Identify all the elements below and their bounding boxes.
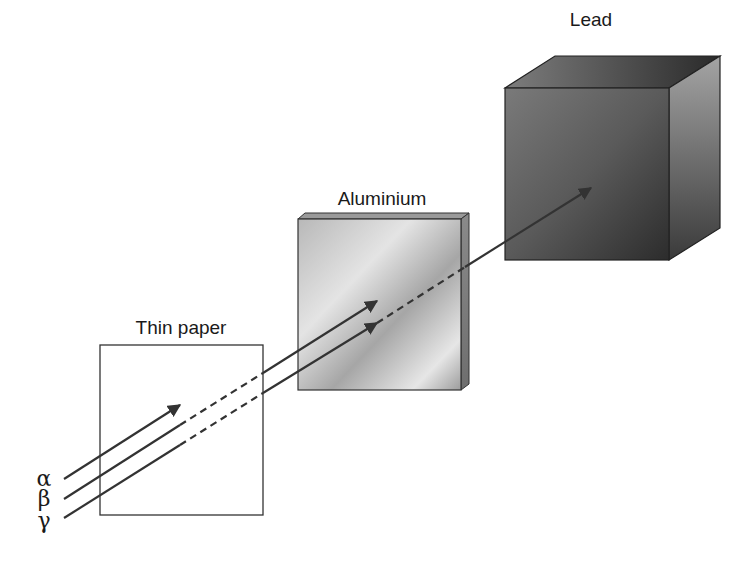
aluminium-top-edge xyxy=(298,213,469,219)
lead-label: Lead xyxy=(570,9,612,30)
thin-paper-sheet xyxy=(100,345,263,515)
lead-side-face xyxy=(669,56,720,260)
radiation-penetration-diagram: Lead Aluminium Thin paper α β γ xyxy=(0,0,745,575)
aluminium-sheet xyxy=(298,213,469,390)
thin-paper-label: Thin paper xyxy=(136,317,228,338)
aluminium-side-edge xyxy=(461,213,469,390)
lead-block xyxy=(505,56,720,260)
lead-front-face xyxy=(505,88,669,260)
aluminium-label: Aluminium xyxy=(338,188,427,209)
gamma-symbol: γ xyxy=(37,508,50,533)
aluminium-front-face xyxy=(298,219,461,390)
